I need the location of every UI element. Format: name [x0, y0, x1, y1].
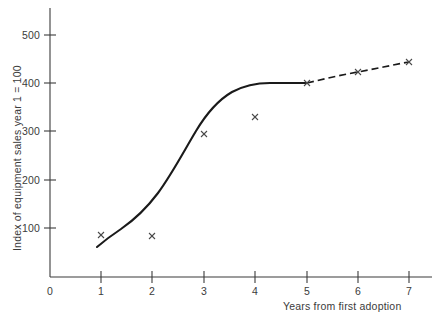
x-tick-label-0: 0 — [47, 285, 53, 297]
x-tick-label-7: 7 — [406, 285, 412, 297]
actual-curve — [97, 83, 307, 247]
line-chart: 500 400 300 200 100 0 1 2 3 4 5 6 7 Inde… — [0, 0, 445, 327]
x-tick-label-6: 6 — [355, 285, 361, 297]
y-axis-title: Index of equipment sales year 1 = 100 — [11, 1, 23, 251]
x-axis-title: Years from first adoption — [283, 300, 401, 312]
x-tick-label-5: 5 — [304, 285, 310, 297]
data-point-markers — [98, 59, 412, 239]
x-tick-label-4: 4 — [252, 285, 258, 297]
x-tick-label-3: 3 — [201, 285, 207, 297]
x-tick-label-1: 1 — [98, 285, 104, 297]
data-point-marker — [149, 233, 155, 239]
data-point-marker — [98, 232, 104, 238]
data-point-marker — [252, 114, 258, 120]
data-point-marker — [201, 131, 207, 137]
chart-plot-area — [0, 0, 445, 327]
x-tick-label-2: 2 — [149, 285, 155, 297]
